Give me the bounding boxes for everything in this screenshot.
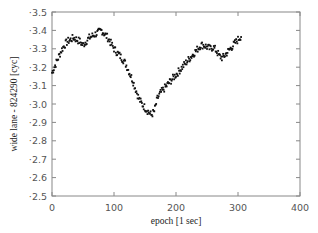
data-point <box>70 37 72 39</box>
data-point <box>240 39 242 41</box>
data-point <box>116 54 118 56</box>
data-point <box>214 47 216 49</box>
y-tick-label: ·3.1 <box>29 80 47 91</box>
data-point <box>224 55 226 57</box>
data-point <box>232 48 234 50</box>
y-tick-label: ·2.5 <box>29 191 47 202</box>
data-point <box>178 67 180 69</box>
data-point <box>168 82 170 84</box>
x-tick-label: 300 <box>229 202 247 213</box>
data-point <box>158 93 160 95</box>
data-point <box>119 57 121 59</box>
data-point <box>59 56 61 58</box>
data-point <box>120 54 122 56</box>
data-point <box>202 44 204 46</box>
data-point <box>106 33 108 35</box>
data-point <box>173 75 175 77</box>
data-point <box>181 68 183 70</box>
data-point <box>112 45 114 47</box>
x-axis-title: epoch [1 sec] <box>151 216 202 226</box>
data-points <box>51 28 242 117</box>
data-point <box>191 57 193 59</box>
data-point <box>177 75 179 77</box>
data-point <box>74 39 76 41</box>
data-point <box>226 55 228 57</box>
data-point <box>149 112 151 114</box>
data-point <box>235 38 237 40</box>
data-point <box>210 45 212 47</box>
data-point <box>124 60 126 62</box>
y-tick-label: ·3.2 <box>29 62 47 73</box>
data-point <box>91 33 93 35</box>
data-point <box>153 110 155 112</box>
data-point <box>163 89 165 91</box>
data-point <box>180 70 182 72</box>
data-point <box>207 45 209 47</box>
data-point <box>219 54 221 56</box>
data-point <box>197 51 199 53</box>
data-point <box>68 42 70 44</box>
data-point <box>189 59 191 61</box>
data-point <box>166 85 168 87</box>
data-point <box>114 46 116 48</box>
data-point <box>237 36 239 38</box>
data-point <box>132 85 134 87</box>
data-point <box>158 95 160 97</box>
data-point <box>122 62 124 64</box>
data-point <box>188 56 190 58</box>
data-point <box>181 66 183 68</box>
data-point <box>163 91 165 93</box>
data-point <box>240 36 242 38</box>
data-point <box>86 40 88 42</box>
data-point <box>220 58 222 60</box>
data-point <box>109 41 111 43</box>
data-point <box>57 59 59 61</box>
x-tick-label: 200 <box>167 202 185 213</box>
x-tick-label: 0 <box>49 202 55 213</box>
data-point <box>217 50 219 52</box>
data-point <box>171 78 173 80</box>
data-point <box>205 44 207 46</box>
data-point <box>196 46 198 48</box>
data-point <box>209 48 211 50</box>
data-point <box>194 55 196 57</box>
data-point <box>147 110 149 112</box>
data-point <box>134 87 136 89</box>
data-point <box>236 41 238 43</box>
data-point <box>64 47 66 49</box>
data-point <box>140 100 142 102</box>
data-point <box>157 97 159 99</box>
data-point <box>141 102 143 104</box>
x-tick-labels: 0100200300400 <box>49 202 309 213</box>
axis-ticks <box>52 12 300 196</box>
data-point <box>55 66 57 68</box>
data-point <box>126 65 128 67</box>
data-point <box>83 42 85 44</box>
y-tick-label: ·3.0 <box>29 99 47 110</box>
data-point <box>185 59 187 61</box>
y-tick-label: ·2.7 <box>29 154 47 165</box>
data-point <box>81 44 83 46</box>
data-point <box>196 49 198 51</box>
data-point <box>79 38 81 40</box>
data-point <box>96 34 98 36</box>
data-point <box>172 74 174 76</box>
data-point <box>101 29 103 31</box>
data-point <box>221 59 223 61</box>
data-point <box>152 115 154 117</box>
data-point <box>183 61 185 63</box>
data-point <box>62 50 64 52</box>
data-point <box>66 44 68 46</box>
data-point <box>130 74 132 76</box>
data-point <box>232 45 234 47</box>
data-point <box>95 31 97 33</box>
data-point <box>86 43 88 45</box>
data-point <box>72 34 74 36</box>
data-point <box>202 48 204 50</box>
data-point <box>187 60 189 62</box>
data-point <box>110 39 112 41</box>
data-point <box>106 37 108 39</box>
data-point <box>173 78 175 80</box>
data-point <box>236 42 238 44</box>
data-point <box>77 40 79 42</box>
